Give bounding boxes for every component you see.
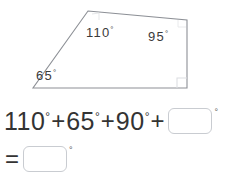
equation-term-110-value: 110 <box>4 107 45 135</box>
corner-tick-top-left-icon <box>92 13 99 20</box>
equation-panel: 110° + 65° + 90° + ° = ° <box>0 100 239 192</box>
corner-tick-top-right-icon <box>178 20 186 27</box>
plus-operator-1: + <box>50 109 66 133</box>
angle-65-value: 65 <box>36 68 53 83</box>
angle-label-95: 95° <box>148 29 168 44</box>
quadrilateral-outline <box>33 11 187 88</box>
equation-term-110: 110° <box>4 109 50 134</box>
equation-line-1: 110° + 65° + 90° + ° <box>4 104 218 138</box>
equation-term-90: 90° <box>116 109 150 134</box>
equation-line-2: = ° <box>4 142 73 176</box>
plus-operator-3: + <box>149 109 165 133</box>
answer-input-total-sum[interactable] <box>23 146 67 172</box>
plus-operator-2: + <box>100 109 116 133</box>
angle-110-value: 110 <box>86 25 110 40</box>
angle-label-110: 110° <box>86 25 114 40</box>
answer-2-degree: ° <box>69 145 73 155</box>
equation-term-65: 65° <box>66 109 100 134</box>
angle-95-value: 95 <box>148 29 165 44</box>
answer-input-missing-angle[interactable] <box>168 108 212 134</box>
angle-65-degree: ° <box>53 68 56 77</box>
quadrilateral-figure <box>0 0 239 100</box>
equals-operator: = <box>4 147 20 171</box>
angle-label-65: 65° <box>36 68 56 83</box>
answer-field-1-wrapper: ° <box>168 108 218 134</box>
angle-110-degree: ° <box>110 25 113 34</box>
figure-panel: 110° 95° 65° <box>0 0 239 100</box>
answer-1-degree: ° <box>214 107 218 117</box>
angle-95-degree: ° <box>165 29 168 38</box>
answer-field-2-wrapper: ° <box>23 146 73 172</box>
equation-term-65-value: 65 <box>66 107 95 135</box>
equation-term-90-value: 90 <box>116 107 145 135</box>
right-angle-marker-icon <box>177 78 187 88</box>
